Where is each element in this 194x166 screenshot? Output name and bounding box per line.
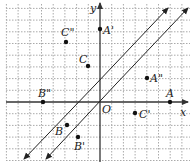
point-B-prime-dot <box>76 135 80 139</box>
y-axis-label: y <box>89 2 97 15</box>
point-C-label: C <box>79 53 88 66</box>
point-C-double-prime: C" <box>61 26 74 44</box>
point-A-double-prime-dot <box>145 76 149 80</box>
point-A-prime-dot <box>98 27 102 31</box>
point-B-double-prime-label: B" <box>37 87 51 100</box>
point-A-prime-label: A' <box>102 24 114 37</box>
point-C-prime-dot <box>133 111 137 115</box>
point-B-double-prime-dot <box>41 100 45 104</box>
point-C-double-prime-label: C" <box>61 26 74 39</box>
point-C-prime-label: C' <box>139 108 150 121</box>
point-A-double-prime: A" <box>145 72 163 85</box>
point-A-dot <box>168 100 172 104</box>
point-B-label: B <box>54 125 63 138</box>
origin-label: O <box>102 103 111 116</box>
coordinate-diagram: x y O A A' A" B B' B" C C' <box>0 0 194 166</box>
point-B-prime: B' <box>73 135 85 153</box>
point-A-double-prime-label: A" <box>149 72 163 85</box>
x-axis-label: x <box>180 106 187 119</box>
point-A-label: A <box>165 87 174 100</box>
point-B: B <box>54 123 69 138</box>
point-B-dot <box>65 123 69 127</box>
point-B-prime-label: B' <box>73 140 85 153</box>
point-C-double-prime-dot <box>64 40 68 44</box>
